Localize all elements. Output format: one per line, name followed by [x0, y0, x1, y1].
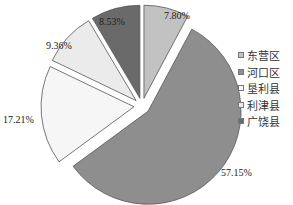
legend-swatch [238, 69, 244, 75]
legend-label: 东营区 [247, 47, 280, 63]
legend-label: 利津县 [247, 97, 280, 113]
label-guangrao: 8.53% [99, 16, 125, 27]
legend: 东营区 河口区 垦利县 利津县 广饶县 [238, 47, 280, 130]
legend-swatch [238, 52, 244, 58]
legend-label: 河口区 [247, 64, 280, 80]
label-dongying: 7.80% [164, 10, 190, 21]
legend-item-lijin: 利津县 [238, 97, 280, 114]
legend-swatch [238, 85, 244, 91]
label-hekou: 57.15% [221, 167, 252, 178]
legend-item-guangrao: 广饶县 [238, 113, 280, 130]
legend-item-dongying: 东营区 [238, 47, 280, 64]
legend-label: 广饶县 [247, 113, 280, 129]
legend-item-hekou: 河口区 [238, 64, 280, 81]
legend-item-kenli: 垦利县 [238, 80, 280, 97]
legend-swatch [238, 102, 244, 108]
legend-swatch [238, 118, 244, 124]
label-lijin: 9.36% [46, 40, 72, 51]
legend-label: 垦利县 [247, 80, 280, 96]
label-kenli: 17.21% [3, 114, 34, 125]
